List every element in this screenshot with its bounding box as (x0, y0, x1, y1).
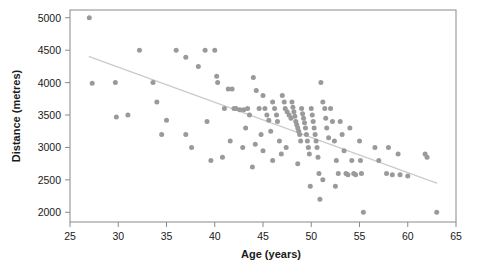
data-point (266, 118, 271, 123)
y-tick-label: 3000 (38, 141, 62, 153)
x-tick-label: 45 (257, 230, 269, 242)
data-point (299, 106, 304, 111)
data-point (90, 81, 95, 86)
data-point (306, 145, 311, 150)
data-point (154, 100, 159, 105)
data-point (338, 119, 343, 124)
data-point (254, 88, 259, 93)
data-point (295, 161, 300, 166)
data-point (323, 116, 328, 121)
data-point (302, 120, 307, 125)
x-tick-label: 30 (112, 230, 124, 242)
data-point (292, 114, 297, 119)
data-point (261, 148, 266, 153)
y-tick-label: 2500 (38, 174, 62, 186)
data-point (305, 138, 310, 143)
data-point (215, 80, 220, 85)
data-point (297, 132, 302, 137)
data-point (164, 118, 169, 123)
data-point (333, 184, 338, 189)
data-point (309, 106, 314, 111)
data-point (183, 132, 188, 137)
data-point (311, 119, 316, 124)
data-point (290, 105, 295, 110)
data-point (183, 55, 188, 60)
x-tick-label: 50 (305, 230, 317, 242)
data-point (322, 106, 327, 111)
data-point (159, 132, 164, 137)
data-point (316, 171, 321, 176)
x-tick-label: 55 (354, 230, 366, 242)
data-point (282, 100, 287, 105)
data-point (328, 106, 333, 111)
data-points-layer (87, 15, 439, 215)
data-point (253, 142, 258, 147)
data-point (189, 145, 194, 150)
y-tick-label: 4000 (38, 77, 62, 89)
data-point (326, 135, 331, 140)
data-point (137, 48, 142, 53)
data-point (259, 132, 264, 137)
data-point (307, 151, 312, 156)
data-point (376, 158, 381, 163)
data-point (228, 138, 233, 143)
y-tick-label: 4500 (38, 44, 62, 56)
data-point (342, 148, 347, 153)
data-point (274, 113, 279, 118)
data-point (425, 155, 430, 160)
data-point (205, 119, 210, 124)
y-tick-label: 3500 (38, 109, 62, 121)
data-point (384, 171, 389, 176)
x-axis-title: Age (years) (241, 248, 301, 260)
data-point (303, 125, 308, 130)
data-point (398, 172, 403, 177)
x-tick-label: 60 (402, 230, 414, 242)
regression-trendline (89, 57, 436, 183)
data-point (222, 106, 227, 111)
data-point (359, 171, 364, 176)
data-point (372, 145, 377, 150)
data-point (279, 151, 284, 156)
trendline-layer (89, 57, 436, 183)
data-point (230, 87, 235, 92)
data-point (240, 145, 245, 150)
data-point (345, 172, 350, 177)
data-point (275, 119, 280, 124)
data-point (317, 197, 322, 202)
data-point (113, 80, 118, 85)
data-point (87, 15, 92, 20)
data-point (251, 75, 256, 80)
data-point (114, 114, 119, 119)
y-axis-title: Distance (metres) (10, 70, 22, 163)
data-point (280, 93, 285, 98)
data-point (250, 164, 255, 169)
data-point (314, 138, 319, 143)
data-point (390, 172, 395, 177)
data-point (308, 184, 313, 189)
data-point (261, 93, 266, 98)
data-point (347, 125, 352, 130)
data-point (349, 158, 354, 163)
data-point (277, 138, 282, 143)
data-point (298, 138, 303, 143)
data-point (270, 100, 275, 105)
data-point (405, 173, 410, 178)
data-point (268, 129, 273, 134)
data-point (320, 177, 325, 182)
data-point (257, 106, 262, 111)
data-point (434, 210, 439, 215)
data-point (304, 132, 309, 137)
data-point (336, 171, 341, 176)
data-point (289, 100, 294, 105)
data-point (208, 158, 213, 163)
data-point (262, 106, 267, 111)
scatter-chart-figure: 2530354045505560652000250030003500400045… (0, 0, 479, 268)
data-point (220, 155, 225, 160)
data-point (361, 210, 366, 215)
data-point (214, 74, 219, 79)
data-point (313, 132, 318, 137)
plot-canvas: 2530354045505560652000250030003500400045… (0, 0, 479, 268)
data-point (272, 106, 277, 111)
data-point (324, 125, 329, 130)
data-point (312, 125, 317, 130)
